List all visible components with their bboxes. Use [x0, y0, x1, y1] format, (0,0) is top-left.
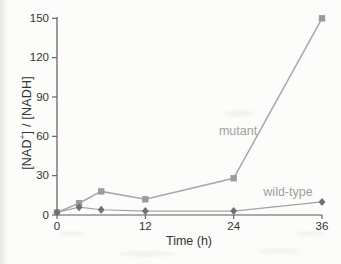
mutant-point-square	[142, 196, 148, 202]
mutant-point-square	[319, 15, 325, 21]
wild-type-point-diamond	[319, 198, 326, 206]
x-axis-title: Time (h)	[166, 234, 212, 248]
mutant-line	[57, 18, 322, 212]
wild-type-point-diamond	[230, 207, 237, 215]
x-tick-label: 0	[54, 220, 60, 232]
wild-type-line	[57, 202, 322, 212]
y-tick-label: 150	[30, 12, 49, 24]
wild-type-point-diamond	[98, 206, 105, 214]
y-tick-label: 90	[36, 91, 49, 103]
y-axis-title-text: [NAD	[20, 139, 34, 170]
x-tick-label: 24	[227, 220, 240, 232]
y-tick-label: 60	[36, 130, 49, 142]
x-tick-label: 36	[316, 220, 329, 232]
chart-svg: 03060901201500122436	[0, 0, 341, 264]
mutant-point-square	[98, 188, 104, 194]
y-tick-label: 30	[36, 169, 49, 181]
y-tick-label: 120	[30, 51, 49, 63]
figure-canvas: 03060901201500122436 [NAD+] / [NADH] Tim…	[0, 0, 341, 264]
series-label-wild-type: wild-type	[263, 185, 312, 199]
x-tick-label: 12	[139, 220, 152, 232]
series-label-mutant: mutant	[219, 124, 257, 138]
wild-type-point-diamond	[142, 207, 149, 215]
y-axis-title: [NAD+] / [NADH]	[18, 76, 33, 170]
y-tick-label: 0	[43, 209, 49, 221]
y-axis-title-superscript: +	[18, 134, 27, 139]
y-axis-title-text-2: ] / [NADH]	[20, 76, 34, 134]
mutant-point-square	[230, 175, 236, 181]
